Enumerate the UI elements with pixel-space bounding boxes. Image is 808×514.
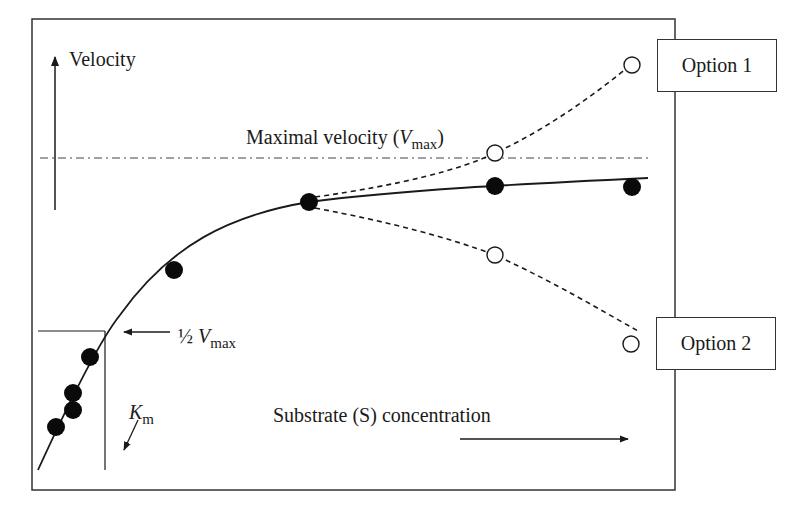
half-vmax-label: ½ Vmax bbox=[178, 326, 236, 346]
vmax-prefix: Maximal velocity ( bbox=[246, 126, 399, 148]
filled-data-points bbox=[47, 177, 641, 436]
data-point bbox=[81, 348, 99, 366]
data-point bbox=[165, 261, 183, 279]
vmax-subscript: max bbox=[412, 136, 438, 152]
data-point bbox=[64, 384, 82, 402]
half-vmax-symbol: V bbox=[198, 325, 210, 347]
option-1-point bbox=[624, 57, 640, 73]
km-label: Km bbox=[129, 402, 154, 422]
km-arrow-icon bbox=[124, 420, 138, 450]
velocity-label: Velocity bbox=[69, 49, 136, 69]
data-point bbox=[64, 401, 82, 419]
open-data-points bbox=[487, 57, 640, 352]
option-2-point bbox=[487, 247, 503, 263]
michaelis-menten-curve bbox=[38, 178, 648, 470]
data-point bbox=[486, 177, 504, 195]
km-symbol: K bbox=[129, 401, 142, 423]
vmax-symbol: V bbox=[399, 126, 411, 148]
half-vmax-subscript: max bbox=[210, 335, 236, 351]
vmax-label: Maximal velocity (Vmax) bbox=[246, 127, 444, 147]
option-1-point bbox=[487, 145, 503, 161]
data-point bbox=[47, 418, 65, 436]
option-1-box: Option 1 bbox=[657, 39, 777, 92]
half-vmax-prefix: ½ bbox=[178, 325, 198, 347]
vmax-suffix: ) bbox=[437, 126, 444, 148]
km-subscript: m bbox=[142, 411, 154, 427]
data-point bbox=[623, 178, 641, 196]
substrate-label: Substrate (S) concentration bbox=[273, 405, 491, 425]
option-2-point bbox=[623, 336, 639, 352]
option-2-dashed-curve bbox=[315, 208, 640, 332]
data-point bbox=[300, 193, 318, 211]
option-2-box: Option 2 bbox=[656, 317, 776, 370]
